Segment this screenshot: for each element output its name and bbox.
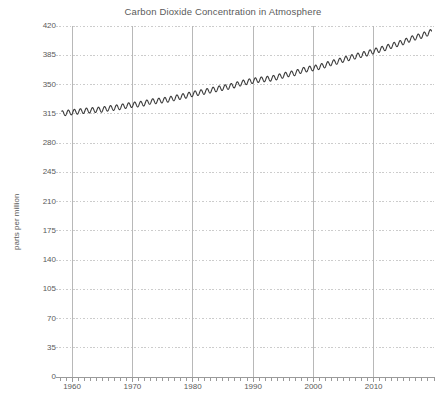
chart-container: Carbon Dioxide Concentration in Atmosphe… [0, 0, 446, 406]
co2-data-line [62, 30, 432, 116]
plot-area [0, 0, 446, 406]
